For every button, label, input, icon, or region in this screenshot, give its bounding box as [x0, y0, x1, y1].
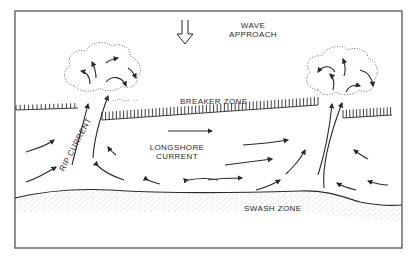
breaker-zone-label: BREAKER ZONE	[180, 97, 247, 106]
wave-approach-line1: WAVE	[218, 21, 288, 30]
rip-head-left	[64, 43, 140, 92]
rip-head-right-arrows	[318, 59, 373, 92]
scribble	[113, 99, 138, 101]
longshore-line1: LONGSHORE	[142, 143, 212, 152]
longshore-current-label: LONGSHORE CURRENT	[142, 143, 212, 161]
wave-approach-arrow-icon	[177, 20, 193, 44]
swash-zone-label: SWASH ZONE	[244, 204, 301, 213]
wave-approach-line2: APPROACH	[218, 30, 288, 39]
rip-current-diagram	[0, 0, 416, 261]
rip-current-right	[318, 103, 342, 188]
rip-head-right	[307, 47, 378, 95]
wave-approach-label: WAVE APPROACH	[218, 21, 288, 39]
rip-head-left-arrows	[81, 58, 136, 86]
longshore-line2: CURRENT	[142, 152, 212, 161]
swash-zone	[15, 189, 402, 222]
